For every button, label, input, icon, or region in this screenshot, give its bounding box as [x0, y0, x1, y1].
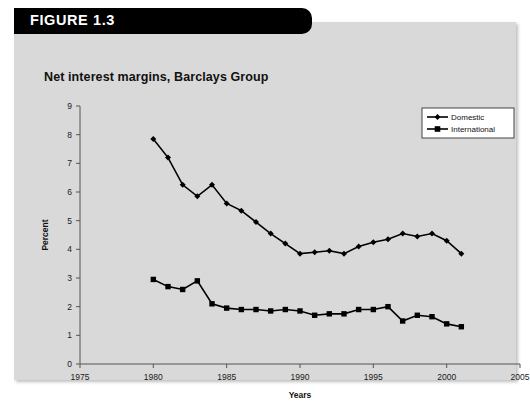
- data-point-marker: [400, 231, 406, 237]
- y-axis-title: Percent: [40, 219, 50, 250]
- y-tick-label: 8: [67, 130, 72, 140]
- y-tick-label: 7: [67, 158, 72, 168]
- data-point-marker: [312, 249, 318, 255]
- data-point-marker: [370, 239, 376, 245]
- data-point-marker: [385, 304, 390, 309]
- data-point-marker: [224, 305, 229, 310]
- data-point-marker: [268, 308, 273, 313]
- y-tick-label: 2: [67, 302, 72, 312]
- x-tick-label: 2005: [511, 372, 530, 382]
- data-point-marker: [209, 301, 214, 306]
- y-tick-label: 0: [67, 359, 72, 369]
- x-tick-label: 1985: [217, 372, 236, 382]
- legend-marker-international: [435, 126, 441, 132]
- data-point-marker: [371, 307, 376, 312]
- data-point-marker: [459, 324, 464, 329]
- data-point-marker: [400, 318, 405, 323]
- data-point-marker: [180, 287, 185, 292]
- data-point-marker: [151, 277, 156, 282]
- y-tick-label: 4: [67, 244, 72, 254]
- x-tick-label: 1990: [291, 372, 310, 382]
- data-point-marker: [341, 251, 347, 257]
- data-point-marker: [429, 314, 434, 319]
- data-point-marker: [326, 248, 332, 254]
- data-point-marker: [297, 308, 302, 313]
- y-tick-label: 5: [67, 216, 72, 226]
- x-axis-title: Years: [289, 390, 312, 400]
- series-group: [150, 136, 464, 329]
- data-point-marker: [327, 311, 332, 316]
- data-point-marker: [356, 307, 361, 312]
- net-interest-margins-line-chart: 01234567891975198019851990199520002005Ye…: [28, 92, 530, 402]
- figure-caption: Net interest margins, Barclays Group: [44, 70, 269, 84]
- data-point-marker: [341, 311, 346, 316]
- data-point-marker: [429, 231, 435, 237]
- data-point-marker: [415, 313, 420, 318]
- axes-group: 01234567891975198019851990199520002005Ye…: [40, 101, 530, 400]
- data-point-marker: [239, 307, 244, 312]
- data-point-marker: [356, 243, 362, 249]
- figure-number-label: FIGURE 1.3: [30, 12, 115, 28]
- series-domestic: [150, 136, 464, 257]
- data-point-marker: [165, 284, 170, 289]
- legend-label-domestic: Domestic: [451, 113, 484, 122]
- series-international: [151, 277, 464, 330]
- x-tick-label: 2000: [437, 372, 456, 382]
- y-tick-label: 9: [67, 101, 72, 111]
- figure-number-banner: FIGURE 1.3: [14, 8, 312, 34]
- data-point-marker: [195, 278, 200, 283]
- data-point-marker: [283, 307, 288, 312]
- legend-label-international: International: [451, 125, 495, 134]
- chart-legend: DomesticInternational: [422, 108, 514, 138]
- data-point-marker: [253, 307, 258, 312]
- data-point-marker: [444, 321, 449, 326]
- x-tick-label: 1980: [144, 372, 163, 382]
- figure-card: Net interest margins, Barclays Group 012…: [14, 22, 516, 380]
- y-tick-label: 3: [67, 273, 72, 283]
- y-tick-label: 6: [67, 187, 72, 197]
- data-point-marker: [414, 233, 420, 239]
- data-point-marker: [385, 236, 391, 242]
- y-tick-label: 1: [67, 330, 72, 340]
- data-point-marker: [312, 313, 317, 318]
- chart-plot-area: 01234567891975198019851990199520002005Ye…: [28, 92, 530, 402]
- x-tick-label: 1995: [364, 372, 383, 382]
- x-tick-label: 1975: [71, 372, 90, 382]
